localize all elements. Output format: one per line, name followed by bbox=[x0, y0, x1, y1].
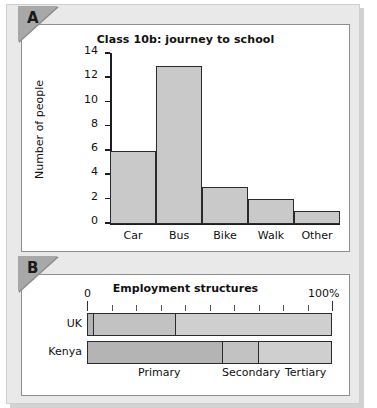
chart-a-ytick-label-4: 4 bbox=[68, 165, 98, 178]
panel-marker-b-letter: B bbox=[27, 259, 38, 277]
chart-b-uk-segment-tertiary bbox=[175, 314, 331, 335]
chart-b-row-label-kenya: Kenya bbox=[36, 345, 82, 358]
chart-a-ytick-14: 14 bbox=[105, 52, 110, 54]
chart-b-scale-tick-80 bbox=[283, 305, 284, 311]
page-shadow-right bbox=[360, 8, 364, 404]
figure-panel-b: Employment structures 0 100% UK Kenya Pr… bbox=[21, 274, 350, 396]
chart-b-scale-label-min: 0 bbox=[84, 287, 91, 300]
chart-a-ytick-label-12: 12 bbox=[68, 68, 98, 81]
chart-b-scale-tick-10 bbox=[112, 305, 113, 311]
chart-a-ytick-8: 8 bbox=[105, 125, 110, 127]
chart-a-category-label-other: Other bbox=[294, 229, 340, 242]
chart-b-row-kenya: Kenya bbox=[87, 341, 332, 364]
chart-a-ytick-label-2: 2 bbox=[68, 190, 98, 203]
chart-b-scale-tick-90 bbox=[308, 305, 309, 311]
chart-b-scale-tick-20 bbox=[136, 305, 137, 311]
chart-b-title: Employment structures bbox=[22, 282, 349, 295]
page-canvas: Class 10b: journey to school Number of p… bbox=[0, 0, 377, 408]
chart-a-ytick-label-10: 10 bbox=[68, 93, 98, 106]
chart-b-scale-tick-30 bbox=[161, 305, 162, 311]
chart-a-x-axis bbox=[110, 224, 340, 226]
chart-a-ytick-label-0: 0 bbox=[68, 214, 98, 227]
chart-b-scale-tick-100 bbox=[332, 301, 333, 311]
chart-b-scale-tick-50 bbox=[210, 305, 211, 311]
chart-b-kenya-segment-primary bbox=[88, 342, 222, 363]
chart-b-kenya-segment-secondary bbox=[222, 342, 258, 363]
chart-b-scale-axis bbox=[87, 301, 332, 311]
chart-a-category-label-car: Car bbox=[110, 229, 156, 242]
chart-a-bar-car bbox=[110, 151, 156, 224]
chart-a-bar-bike bbox=[202, 187, 248, 223]
chart-a-ytick-label-8: 8 bbox=[68, 117, 98, 130]
chart-b-scale-tick-0 bbox=[87, 301, 88, 311]
chart-b-segment-label-secondary: Secondary bbox=[222, 366, 280, 379]
chart-b-row-label-uk: UK bbox=[36, 317, 82, 330]
panel-marker-b: B bbox=[18, 256, 62, 296]
chart-a-category-label-bike: Bike bbox=[202, 229, 248, 242]
chart-b-segment-label-primary: Primary bbox=[138, 366, 181, 379]
chart-a-bar-bus bbox=[156, 66, 202, 224]
chart-b-scale-tick-70 bbox=[259, 305, 260, 311]
figure-panel-a: Class 10b: journey to school Number of p… bbox=[21, 24, 350, 252]
page-shadow-bottom bbox=[10, 404, 364, 408]
chart-a-ytick-10: 10 bbox=[105, 101, 110, 103]
chart-b-scale-label-max: 100% bbox=[308, 287, 339, 300]
chart-a-y-axis-label: Number of people bbox=[33, 60, 46, 200]
chart-a-bar-other bbox=[294, 211, 340, 223]
panel-marker-a: A bbox=[18, 6, 62, 46]
chart-b-scale-tick-60 bbox=[234, 305, 235, 311]
chart-a-plot-area: 0 2 4 6 8 10 12 14 bbox=[110, 53, 340, 225]
chart-a-bar-walk bbox=[248, 199, 294, 223]
chart-a-ytick-label-6: 6 bbox=[68, 141, 98, 154]
chart-b-row-uk: UK bbox=[87, 313, 332, 336]
chart-a-ytick-12: 12 bbox=[105, 76, 110, 78]
chart-b-uk-segment-secondary bbox=[93, 314, 176, 335]
panel-marker-a-letter: A bbox=[27, 9, 39, 27]
chart-b-segment-label-tertiary: Tertiary bbox=[285, 366, 326, 379]
chart-a-ytick-label-14: 14 bbox=[68, 44, 98, 57]
chart-b-scale-tick-40 bbox=[185, 305, 186, 311]
chart-b-kenya-segment-tertiary bbox=[258, 342, 331, 363]
chart-a-category-label-bus: Bus bbox=[156, 229, 202, 242]
chart-a-category-label-walk: Walk bbox=[248, 229, 294, 242]
